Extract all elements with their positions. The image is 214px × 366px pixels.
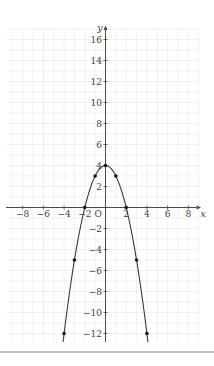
svg-text:−8: −8 (16, 209, 30, 219)
graph-container: −8−6−4−22468−12−10−8−6−4−2246810121416Oy… (0, 0, 214, 348)
svg-text:−6: −6 (37, 209, 51, 219)
function-graph: −8−6−4−22468−12−10−8−6−4−2246810121416Oy… (0, 0, 214, 348)
svg-text:16: 16 (91, 35, 103, 45)
svg-text:12: 12 (91, 77, 102, 87)
svg-text:14: 14 (91, 56, 103, 66)
svg-text:8: 8 (185, 209, 191, 219)
svg-text:10: 10 (91, 98, 103, 108)
svg-text:−10: −10 (83, 308, 102, 318)
svg-text:−2: −2 (89, 224, 102, 234)
svg-text:2: 2 (96, 182, 102, 192)
svg-text:4: 4 (144, 209, 150, 219)
svg-text:y: y (96, 22, 103, 33)
svg-text:−6: −6 (89, 266, 103, 276)
svg-text:−4: −4 (57, 209, 71, 219)
svg-text:O: O (95, 209, 102, 219)
svg-text:−4: −4 (89, 245, 103, 255)
bottom-separator (0, 351, 214, 353)
svg-text:x: x (201, 208, 207, 219)
svg-text:−8: −8 (89, 287, 103, 297)
svg-text:−2: −2 (78, 209, 91, 219)
svg-text:6: 6 (165, 209, 171, 219)
svg-text:6: 6 (96, 140, 102, 150)
page: −8−6−4−22468−12−10−8−6−4−2246810121416Oy… (0, 0, 214, 366)
svg-text:8: 8 (96, 119, 102, 129)
svg-text:−12: −12 (83, 329, 102, 339)
